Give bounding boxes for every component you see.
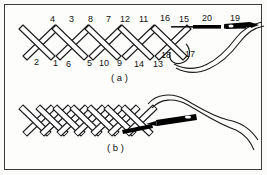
- thread-tail-b-2: [236, 130, 254, 150]
- panel-label-b: ( b ): [107, 143, 124, 153]
- figure-root: 4 3 8 7 12 11 16 15 20 19 2 1 6 5 10 9 1…: [0, 0, 267, 175]
- diagram-stage: 4 3 8 7 12 11 16 15 20 19 2 1 6 5 10 9 1…: [0, 0, 267, 175]
- needle-b-eye: [185, 115, 191, 118]
- needle-b: [156, 114, 197, 126]
- thread-tail-b: [228, 120, 258, 140]
- panel-b-artwork: [0, 0, 267, 175]
